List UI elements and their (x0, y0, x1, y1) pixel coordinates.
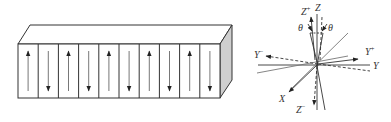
domain-bar (18, 25, 232, 98)
bar-top-face (18, 25, 232, 44)
label-theta-left: θ (298, 22, 303, 33)
label-y-plus: Y+ (365, 45, 375, 57)
label-z: Z (315, 2, 321, 13)
theta-right-arrow (322, 24, 327, 31)
label-theta-right: θ (328, 22, 333, 33)
lower-solid-line (317, 66, 325, 110)
label-y-minus: Y− (254, 48, 264, 60)
figure-canvas: Z+ Z θ θ Y− Y+ Y X Z− (0, 0, 391, 122)
x-arrow (289, 65, 317, 92)
label-x: X (278, 93, 286, 104)
label-z-plus: Z+ (301, 5, 311, 17)
y-plus-arrow (318, 59, 358, 64)
axes-diagram (257, 14, 370, 110)
label-y: Y (373, 60, 380, 71)
figure: Z+ Z θ θ Y− Y+ Y X Z− (0, 0, 391, 122)
y-minus-arrow (266, 56, 318, 64)
rotated-y-line (257, 56, 348, 73)
label-z-minus: Z− (296, 103, 306, 115)
